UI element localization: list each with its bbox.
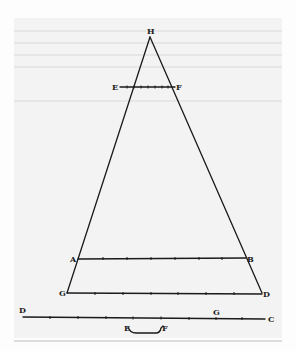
geometric-diagram: H E F A B G D D G C E F <box>0 0 296 351</box>
label-a: A <box>69 254 77 264</box>
bracket-e-f <box>128 326 163 333</box>
side-h-d <box>150 37 262 293</box>
label-d: D <box>263 289 270 299</box>
label-scale-start-d: D <box>19 305 26 315</box>
label-scale-mid-g: G <box>213 307 220 317</box>
label-h: H <box>147 26 155 36</box>
scale-line-d-c <box>23 317 265 319</box>
label-scale-end-c: C <box>268 314 274 324</box>
label-e: E <box>112 82 118 92</box>
label-b: B <box>247 254 254 264</box>
label-bracket-f: F <box>162 323 168 333</box>
side-h-g <box>67 37 150 293</box>
label-f: F <box>176 82 182 92</box>
label-g: G <box>59 288 66 298</box>
segment-g-d <box>67 293 262 294</box>
label-bracket-e: E <box>124 323 130 333</box>
tick-marks <box>50 86 242 321</box>
document-page: H E F A B G D D G C E F <box>0 0 296 351</box>
